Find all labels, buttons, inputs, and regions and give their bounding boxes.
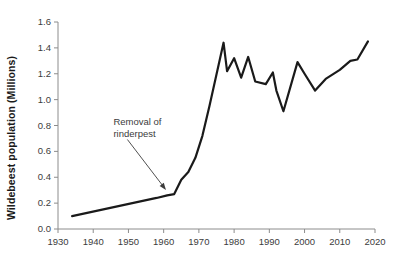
x-tick-label: 1950 [108, 236, 148, 247]
x-tick-label: 1980 [214, 236, 254, 247]
plot-area [0, 0, 398, 276]
y-tick-label: 0.6 [18, 145, 51, 156]
axes [54, 22, 375, 233]
x-tick-label: 2010 [320, 236, 360, 247]
x-tick-label: 1990 [249, 236, 289, 247]
annotation-line-1: Removal of [113, 116, 161, 128]
x-tick-label: 2020 [355, 236, 395, 247]
y-tick-label: 0.0 [18, 223, 51, 234]
x-tick-label: 1930 [38, 236, 78, 247]
y-tick-label: 1.2 [18, 68, 51, 79]
annotation-label-removal-of-rinderpest: Removal ofrinderpest [113, 116, 161, 140]
y-tick-label: 0.8 [18, 120, 51, 131]
y-tick-label: 1.4 [18, 42, 51, 53]
x-tick-label: 1940 [73, 236, 113, 247]
annotation-arrow [127, 140, 166, 190]
chart-figure: Wildebeest population (Millions) 0.00.20… [0, 0, 398, 276]
y-tick-label: 0.2 [18, 197, 51, 208]
y-tick-label: 0.4 [18, 171, 51, 182]
y-tick-label: 1.0 [18, 94, 51, 105]
x-tick-label: 2000 [285, 236, 325, 247]
annotation-line-2: rinderpest [113, 128, 161, 140]
x-tick-label: 1970 [179, 236, 219, 247]
y-tick-label: 1.6 [18, 16, 51, 27]
x-tick-label: 1960 [144, 236, 184, 247]
